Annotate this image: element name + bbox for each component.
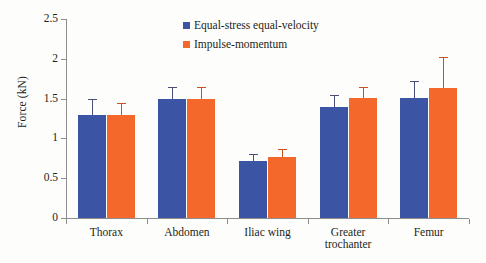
error-bar-cap — [410, 81, 419, 82]
legend-label: Impulse-momentum — [194, 39, 287, 51]
error-bar — [443, 57, 444, 88]
bar-group — [78, 19, 135, 218]
legend-entry: Impulse-momentum — [183, 39, 319, 51]
y-tick-label: 0 — [18, 212, 58, 224]
x-tick-label: Greatertrochanter — [308, 226, 389, 251]
error-bar-cap — [439, 57, 448, 58]
y-tick-label: 2 — [18, 53, 58, 65]
x-tick-label-line: Femur — [388, 226, 469, 238]
x-tick-mark — [308, 219, 309, 224]
error-bar — [334, 95, 335, 108]
y-tick-label: 1 — [18, 132, 58, 144]
error-bar-cap — [330, 95, 339, 96]
error-bar-cap — [117, 103, 126, 104]
bar-chart: Force (kN) 00.511.522.5 ThoraxAbdomenIli… — [0, 0, 486, 263]
bar — [107, 115, 135, 218]
error-bar-cap — [168, 87, 177, 88]
error-bar — [253, 154, 254, 161]
legend-swatch-icon — [183, 41, 190, 48]
y-tick-label: 0.5 — [18, 172, 58, 184]
error-bar-cap — [197, 87, 206, 88]
bar — [349, 98, 377, 218]
bar — [187, 99, 215, 218]
x-tick-mark — [469, 219, 470, 224]
chart-legend: Equal-stress equal-velocityImpulse-momen… — [183, 20, 319, 57]
x-tick-label-line: trochanter — [308, 238, 389, 250]
bar-group — [400, 19, 457, 218]
legend-swatch-icon — [183, 22, 190, 29]
x-tick-label: Thorax — [66, 226, 147, 238]
x-tick-label: Abdomen — [147, 226, 228, 238]
x-tick-label: Femur — [388, 226, 469, 238]
x-tick-label-line: Thorax — [66, 226, 147, 238]
bar — [400, 98, 428, 218]
bar — [78, 115, 106, 218]
error-bar — [282, 149, 283, 157]
x-tick-mark — [66, 219, 67, 224]
legend-entry: Equal-stress equal-velocity — [183, 20, 319, 32]
bar — [158, 99, 186, 218]
error-bar-cap — [359, 87, 368, 88]
x-tick-mark — [388, 219, 389, 224]
bar — [268, 157, 296, 218]
x-tick-label: Iliac wing — [227, 226, 308, 238]
x-tick-label-line: Abdomen — [147, 226, 228, 238]
error-bar — [172, 87, 173, 98]
error-bar-cap — [278, 149, 287, 150]
x-tick-mark — [147, 219, 148, 224]
error-bar-cap — [249, 154, 258, 155]
bar — [239, 161, 267, 218]
x-tick-mark — [227, 219, 228, 224]
y-tick-label: 1.5 — [18, 93, 58, 105]
error-bar-cap — [88, 99, 97, 100]
x-tick-label-line: Iliac wing — [227, 226, 308, 238]
error-bar — [363, 87, 364, 97]
error-bar — [201, 87, 202, 98]
y-tick-label: 2.5 — [18, 13, 58, 25]
legend-label: Equal-stress equal-velocity — [194, 20, 319, 32]
error-bar — [121, 103, 122, 115]
bar — [320, 107, 348, 218]
bar — [429, 88, 457, 218]
bar-group — [320, 19, 377, 218]
x-tick-label-line: Greater — [308, 226, 389, 238]
error-bar — [92, 99, 93, 115]
x-axis-line — [66, 218, 469, 219]
error-bar — [414, 81, 415, 98]
